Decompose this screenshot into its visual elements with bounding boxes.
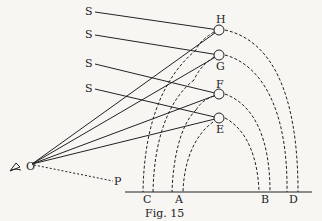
ray-e-to-o	[32, 118, 219, 164]
label-f: F	[216, 78, 224, 91]
ray-f-to-o	[32, 94, 219, 164]
sun-ray-g	[95, 35, 219, 55]
diagram-canvas: S S S S H G F E O P C A B D Fig. 15	[0, 0, 322, 221]
ray-h-to-o	[32, 30, 219, 164]
arc-h-left	[143, 50, 196, 192]
raindrop-g	[214, 50, 224, 60]
arc-e-left	[183, 122, 213, 192]
cone-g	[194, 57, 214, 80]
arc-h-outer	[225, 30, 298, 192]
label-d: D	[289, 193, 298, 206]
label-o: O	[26, 160, 35, 173]
label-s4: S	[85, 82, 93, 95]
label-h: H	[216, 13, 226, 26]
axis-o-to-p	[34, 165, 113, 181]
raindrop-e	[214, 113, 224, 123]
label-b: B	[261, 193, 269, 206]
label-p: P	[114, 175, 122, 188]
label-s2: S	[85, 28, 93, 41]
label-a: A	[174, 193, 184, 206]
figure-caption: Fig. 15	[145, 207, 184, 220]
arc-f-outer	[225, 94, 270, 192]
raindrop-h	[214, 25, 224, 35]
arc-e-outer	[225, 118, 259, 192]
cone-h	[196, 32, 214, 50]
label-g: G	[216, 60, 225, 73]
eye-icon	[10, 163, 21, 171]
sun-ray-h	[95, 12, 219, 30]
label-c: C	[143, 193, 151, 206]
label-s3: S	[85, 57, 93, 70]
label-s1: S	[85, 5, 93, 18]
label-e: E	[216, 123, 224, 136]
sun-ray-e	[95, 89, 219, 118]
cone-f	[196, 96, 214, 110]
